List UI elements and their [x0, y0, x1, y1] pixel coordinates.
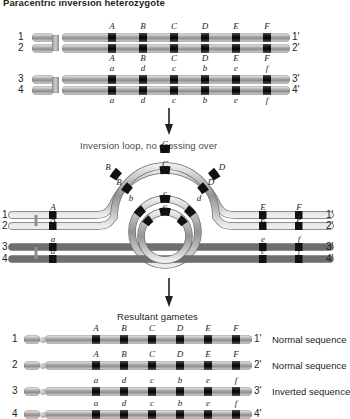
locus-band — [204, 410, 212, 419]
locus-band — [232, 335, 240, 344]
caption-resultant-gametes: Resultant gametes — [117, 311, 198, 322]
locus-label: d — [136, 96, 150, 105]
gamete-short-arm — [24, 335, 40, 344]
locus-label: f — [260, 64, 274, 73]
locus-label: F — [229, 350, 243, 359]
locus-band — [263, 86, 271, 95]
locus-band — [139, 75, 147, 84]
locus-label: a — [105, 64, 119, 73]
loop-arc-locus: d — [192, 194, 206, 203]
locus-band — [139, 33, 147, 42]
locus-label: e — [201, 376, 215, 385]
gamete-short-arm — [24, 410, 40, 419]
locus-band — [263, 75, 271, 84]
gamete-sequence-annotation: Normal sequence — [272, 334, 346, 345]
locus-label: e — [229, 96, 243, 105]
locus-label: C — [167, 22, 181, 31]
locus-band — [232, 75, 240, 84]
loop-left-locus: A — [46, 215, 60, 224]
locus-band — [148, 335, 156, 344]
chromatid-right-number: 1' — [292, 32, 299, 42]
locus-band — [176, 410, 184, 419]
loop-right-end-number: 2' — [326, 221, 333, 231]
locus-band — [263, 33, 271, 42]
locus-band — [176, 361, 184, 370]
figure-title: Paracentric inversion heterozygote — [3, 0, 165, 8]
locus-label: D — [198, 22, 212, 31]
locus-label: A — [89, 324, 103, 333]
loop-left-end-number: 3 — [2, 242, 8, 252]
loop-arc-locus: c — [158, 189, 172, 198]
locus-label: A — [105, 22, 119, 31]
loop-left-locus: A — [46, 203, 60, 212]
gamete-right-number: 4' — [254, 409, 261, 419]
locus-label: c — [167, 96, 181, 105]
locus-label: D — [173, 350, 187, 359]
locus-label: f — [229, 399, 243, 408]
loop-left-end-number: 2 — [2, 221, 8, 231]
locus-band — [170, 44, 178, 53]
locus-label: E — [201, 350, 215, 359]
locus-band — [232, 361, 240, 370]
loop-arc-locus: b — [124, 194, 138, 203]
loop-right-locus: F — [292, 215, 306, 224]
locus-label: a — [89, 399, 103, 408]
gamete-right-number: 1' — [254, 334, 261, 344]
locus-band — [201, 44, 209, 53]
loop-right-locus: F — [292, 203, 306, 212]
locus-band — [148, 387, 156, 396]
loop-right-locus: e — [256, 247, 270, 256]
locus-band — [232, 44, 240, 53]
locus-band — [92, 361, 100, 370]
chromatid-left-number: 1 — [18, 32, 24, 42]
chromatid-short-arm — [32, 86, 54, 95]
loop-arc-locus: B — [101, 163, 115, 172]
locus-band — [232, 86, 240, 95]
locus-label: b — [173, 399, 187, 408]
locus-label: d — [136, 64, 150, 73]
locus-label: e — [229, 64, 243, 73]
chromatid-right-number: 4' — [292, 85, 299, 95]
loop-arc-locus: b — [133, 209, 147, 218]
locus-label: a — [89, 376, 103, 385]
locus-label: F — [260, 54, 274, 63]
chromatid-short-arm — [32, 75, 54, 84]
locus-band — [204, 361, 212, 370]
chromatid-left-number: 3 — [18, 74, 24, 84]
loop-left-end-number: 1 — [2, 210, 8, 220]
locus-band — [139, 86, 147, 95]
locus-label: f — [260, 96, 274, 105]
locus-label: A — [105, 54, 119, 63]
locus-band — [204, 387, 212, 396]
loop-right-end-number: 3' — [326, 242, 333, 252]
locus-label: b — [198, 64, 212, 73]
loop-right-end-number: 1' — [326, 210, 333, 220]
loop-right-locus: E — [256, 215, 270, 224]
gamete-right-number: 2' — [254, 360, 261, 370]
gamete-short-arm — [24, 361, 40, 370]
gamete-short-arm — [24, 387, 40, 396]
locus-band — [204, 335, 212, 344]
loop-arc-locus: B — [112, 178, 126, 187]
locus-band — [108, 33, 116, 42]
locus-label: b — [173, 376, 187, 385]
locus-label: B — [117, 350, 131, 359]
chromatid-short-arm — [32, 44, 54, 53]
locus-band — [201, 33, 209, 42]
chromatid-right-number: 3' — [292, 74, 299, 84]
gamete-sequence-annotation: Normal sequence — [272, 360, 346, 371]
chromatid-right-number: 2' — [292, 43, 299, 53]
locus-label: A — [89, 350, 103, 359]
locus-band — [201, 86, 209, 95]
locus-label: E — [229, 22, 243, 31]
locus-band — [139, 44, 147, 53]
gamete-sequence-annotation: Inverted sequence — [272, 386, 350, 397]
locus-band — [92, 335, 100, 344]
locus-label: E — [201, 324, 215, 333]
loop-right-locus: E — [256, 203, 270, 212]
gamete-centromere — [40, 412, 46, 418]
locus-label: B — [136, 54, 150, 63]
chromatid-left-number: 4 — [18, 85, 24, 95]
gamete-centromere — [40, 363, 46, 369]
